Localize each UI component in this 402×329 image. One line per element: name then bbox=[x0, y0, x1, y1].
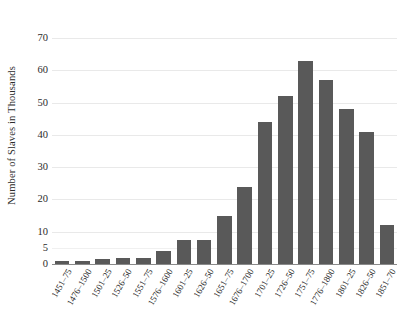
bar[interactable] bbox=[156, 251, 171, 264]
y-tick-label: 20 bbox=[24, 194, 48, 205]
bar[interactable] bbox=[197, 240, 212, 264]
bar[interactable] bbox=[380, 225, 395, 264]
y-tick-label: 40 bbox=[24, 130, 48, 141]
bar[interactable] bbox=[359, 132, 374, 264]
bar[interactable] bbox=[217, 216, 232, 264]
bar-slot bbox=[113, 38, 133, 264]
bar[interactable] bbox=[278, 96, 293, 264]
bar-slot bbox=[235, 38, 255, 264]
bar[interactable] bbox=[298, 61, 313, 264]
bar-slot bbox=[255, 38, 275, 264]
bar-chart-figure: Number of Slaves in Thousands 0510203040… bbox=[0, 0, 402, 329]
bar-slot bbox=[275, 38, 295, 264]
y-tick-label: 70 bbox=[24, 33, 48, 44]
bar-slot bbox=[356, 38, 376, 264]
bar[interactable] bbox=[258, 122, 273, 264]
x-axis-tick-labels: 1451–751476–15001501–251526–501551–75157… bbox=[52, 264, 397, 329]
y-tick-label: 50 bbox=[24, 97, 48, 108]
bar-slot bbox=[214, 38, 234, 264]
bar-slot bbox=[316, 38, 336, 264]
y-axis-title-text: Number of Slaves in Thousands bbox=[6, 66, 17, 205]
y-tick-label: 30 bbox=[24, 162, 48, 173]
bar-slot bbox=[336, 38, 356, 264]
bar-slot bbox=[133, 38, 153, 264]
y-tick-label: 10 bbox=[24, 226, 48, 237]
bar-slot bbox=[72, 38, 92, 264]
bar-slot bbox=[377, 38, 397, 264]
bar-slot bbox=[174, 38, 194, 264]
bar-slot bbox=[52, 38, 72, 264]
bar-slot bbox=[153, 38, 173, 264]
bar-slot bbox=[93, 38, 113, 264]
bar-slot bbox=[296, 38, 316, 264]
bar[interactable] bbox=[177, 240, 192, 264]
bar[interactable] bbox=[237, 187, 252, 265]
bar-series bbox=[52, 38, 397, 264]
bar[interactable] bbox=[339, 109, 354, 264]
bar-slot bbox=[194, 38, 214, 264]
y-tick-label: 5 bbox=[24, 243, 48, 254]
bar[interactable] bbox=[319, 80, 334, 264]
y-axis-tick-labels: 0510203040506070 bbox=[18, 38, 48, 264]
y-tick-label: 0 bbox=[24, 259, 48, 270]
y-tick-label: 60 bbox=[24, 65, 48, 76]
